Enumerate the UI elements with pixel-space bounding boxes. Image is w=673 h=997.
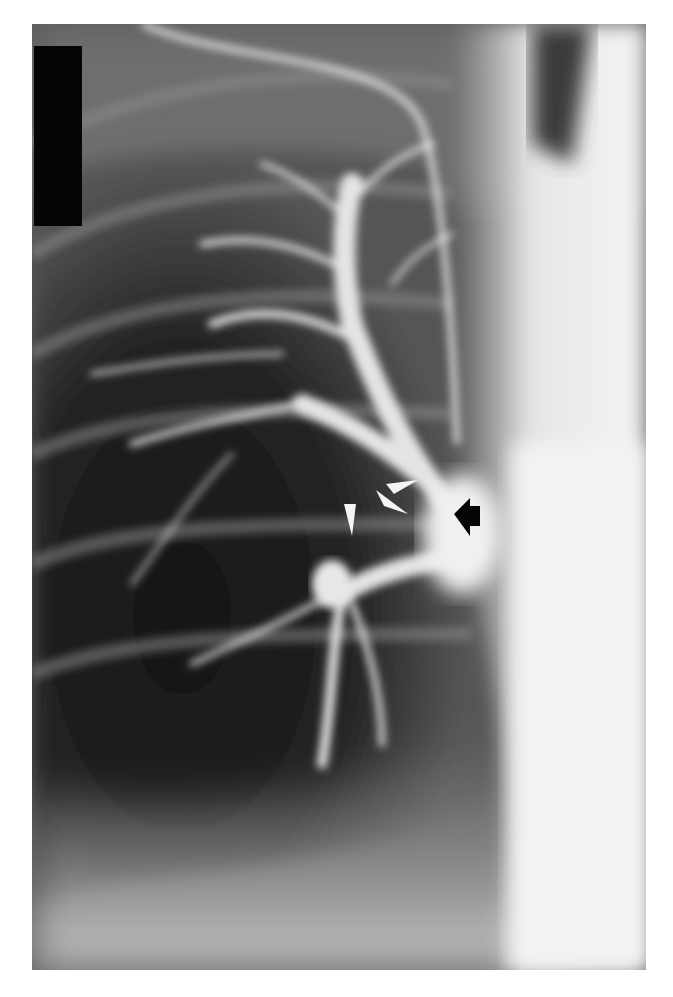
hilum — [422, 474, 502, 594]
radiograph-image — [32, 24, 646, 970]
radiograph-film — [32, 24, 646, 970]
redaction-block — [34, 46, 82, 226]
